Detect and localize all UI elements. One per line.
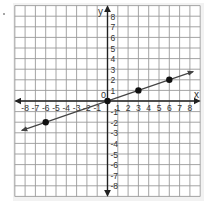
x-tick-label: -4 (63, 103, 71, 113)
y-tick-label: 6 (111, 33, 116, 43)
y-tick-label: -2 (111, 118, 119, 128)
y-tick-label: -7 (111, 171, 119, 181)
y-tick-label: 7 (111, 22, 116, 32)
x-tick-label: 4 (146, 103, 151, 113)
y-tick-label: -8 (111, 181, 119, 191)
coordinate-grid: -8-7-6-5-4-3-2-11234567887654321-1-2-3-4… (0, 0, 206, 208)
y-tick-label: -1 (111, 107, 119, 117)
x-tick-label: 7 (177, 103, 182, 113)
x-tick-label: -5 (52, 103, 60, 113)
y-tick-label: 4 (111, 54, 116, 64)
y-tick-label: -4 (111, 139, 119, 149)
x-tick-label: -6 (42, 103, 50, 113)
y-tick-label: -3 (111, 128, 119, 138)
y-tick-label: -5 (111, 150, 119, 160)
x-tick-label: 6 (167, 103, 172, 113)
y-tick-label: 1 (111, 86, 116, 96)
origin-label: 0 (101, 90, 106, 100)
data-point (43, 119, 49, 125)
x-tick-label: 3 (136, 103, 141, 113)
coordinate-plane-figure: -8-7-6-5-4-3-2-11234567887654321-1-2-3-4… (0, 0, 206, 208)
y-tick-label: -6 (111, 160, 119, 170)
y-tick-label: 5 (111, 44, 116, 54)
x-tick-label: 8 (188, 103, 193, 113)
x-axis-label: x (194, 89, 199, 100)
x-tick-label: -8 (21, 103, 29, 113)
y-tick-label: 2 (111, 75, 116, 85)
bullet-dot (3, 13, 5, 15)
y-tick-label: 3 (111, 65, 116, 75)
data-point (166, 77, 172, 83)
x-tick-label: 5 (157, 103, 162, 113)
y-axis-label: y (98, 6, 103, 17)
y-tick-label: 8 (111, 12, 116, 22)
x-tick-label: -7 (32, 103, 40, 113)
x-tick-label: 2 (126, 103, 131, 113)
data-point (135, 87, 141, 93)
